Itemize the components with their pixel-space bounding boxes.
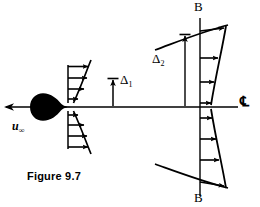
body-shape — [30, 93, 71, 121]
station-2-envelope-lower — [211, 109, 226, 188]
delta2-dimension — [180, 35, 191, 107]
delta1-dimension — [108, 79, 119, 107]
delta1-subscript: 1 — [128, 80, 132, 89]
delta2-subscript: 2 — [160, 59, 164, 68]
station-label-top-b: B — [194, 0, 203, 13]
delta2-label: Δ2 — [152, 52, 164, 65]
centerline-symbol: ℄ — [240, 95, 249, 109]
centerline-glyph: ℄ — [240, 94, 249, 109]
figure-caption: Figure 9.7 — [27, 170, 81, 182]
station-label-bottom-b: B — [194, 191, 203, 204]
freestream-subscript: ∞ — [19, 126, 25, 135]
delta1-label: Δ1 — [120, 73, 132, 86]
freestream-symbol: u — [12, 119, 19, 133]
figure-9-7: u∞ Δ1 Δ2 B B ℄ Figure 9.7 — [0, 0, 260, 207]
freestream-velocity-label: u∞ — [12, 120, 24, 132]
station-2-envelope-upper — [211, 26, 226, 105]
